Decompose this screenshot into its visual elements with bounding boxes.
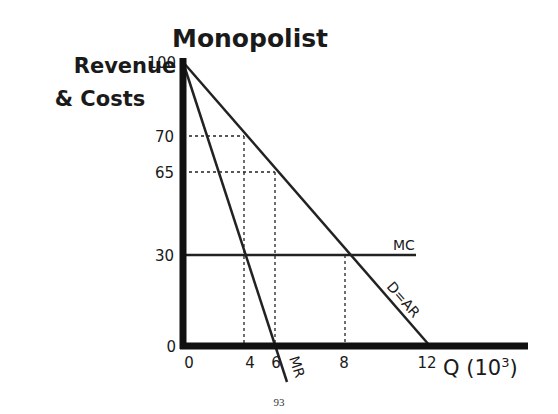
monopolist-chart: Monopolist Revenue & Costs 100 70 65 30 … [0,0,558,414]
demand-ar-curve [183,62,430,346]
x-tick-12: 12 [417,354,436,372]
x-axis-label-sup: 3 [501,355,509,370]
y-tick-0: 0 [166,338,176,356]
x-axis-label: Q (103) [443,355,518,380]
page-number: 93 [274,396,286,408]
x-axis-label-close: ) [509,356,517,380]
x-axis-label-main: Q (10 [443,356,501,380]
x-tick-4: 4 [245,354,255,372]
mr-label: MR [286,354,308,380]
y-tick-30: 30 [155,247,174,265]
x-tick-6: 6 [271,354,281,372]
y-tick-100: 100 [147,54,176,72]
chart-title: Monopolist [172,24,328,53]
y-axis-label-line2: & Costs [55,87,146,111]
mc-label: MC [393,237,415,253]
mr-curve [183,62,287,382]
x-tick-0: 0 [184,354,194,372]
y-tick-70: 70 [155,128,174,146]
y-tick-65: 65 [155,164,174,182]
x-tick-8: 8 [339,354,349,372]
